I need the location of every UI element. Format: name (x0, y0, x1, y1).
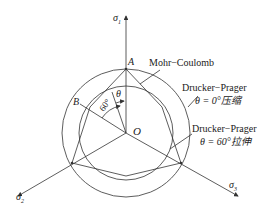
point-o-label: O (133, 126, 141, 137)
sigma2-label: σ2 (16, 192, 24, 204)
mohr-coulomb-label: Mohr−Coulomb (149, 58, 214, 68)
point-b-label: B (73, 97, 79, 107)
theta-arc (116, 101, 124, 103)
point-a-label: A (128, 57, 134, 67)
sigma1-label: σ1 (113, 13, 121, 25)
sigma2-axis (18, 133, 126, 196)
theta-label: θ (116, 89, 121, 99)
dp-compression-name: Drucker−Prager (182, 83, 247, 93)
dp-tension-name: Drucker−Prager (192, 124, 257, 134)
yield-surface-diagram: σ1 σ2 σ3 A B O θ 60° Mohr−Coulomb Drucke… (0, 0, 265, 210)
dp-compression-condition: θ = 0°压缩 (195, 96, 241, 106)
dp-tension-condition: θ = 60°拉伸 (200, 137, 251, 147)
sigma3-label: σ3 (229, 180, 237, 192)
